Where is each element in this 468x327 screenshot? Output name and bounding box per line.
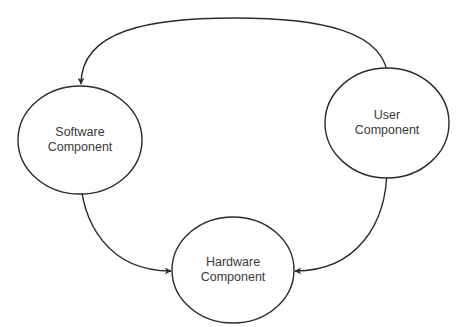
hardware-label-line1: Hardware [206,255,260,269]
edge-software-user [81,18,388,84]
user-label-line2: Component [355,123,420,137]
software-label-line1: Software [55,125,104,139]
user-label-line1: User [374,108,400,122]
node-hardware-component: Hardware Component [172,217,294,323]
node-software-component: Software Component [18,86,142,194]
hardware-label-line2: Component [201,270,266,284]
edge-user-hardware [295,167,387,271]
node-user-component: User Component [325,68,449,178]
diagram-canvas: Software Component User Component Hardwa… [0,0,468,327]
software-label-line2: Component [48,140,113,154]
